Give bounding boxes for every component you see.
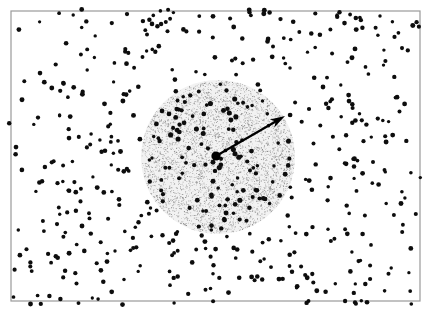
- scatter-point: [150, 234, 154, 238]
- scatter-point: [261, 196, 266, 201]
- scatter-point: [384, 202, 388, 206]
- scatter-point: [241, 188, 246, 193]
- scatter-point: [186, 146, 191, 151]
- scatter-point: [123, 230, 127, 234]
- scatter-point: [81, 90, 85, 94]
- scatter-point: [109, 140, 113, 144]
- scatter-point: [299, 264, 303, 268]
- scatter-point: [88, 143, 92, 147]
- scatter-point: [124, 61, 129, 66]
- scatter-point: [204, 209, 208, 213]
- scatter-point: [217, 276, 221, 280]
- scatter-point: [177, 123, 181, 127]
- scatter-point: [364, 65, 368, 69]
- scatter-point: [37, 180, 42, 185]
- scatter-point: [365, 300, 370, 305]
- scatter-point: [361, 139, 365, 143]
- scatter-point: [172, 251, 176, 255]
- scatter-point: [346, 60, 350, 64]
- scatter-point: [249, 149, 254, 154]
- scatter-point: [167, 166, 171, 170]
- scatter-point: [78, 199, 82, 203]
- scatter-point: [231, 25, 236, 30]
- scatter-point: [28, 260, 32, 264]
- scatter-point: [181, 95, 185, 99]
- scatter-point: [260, 277, 264, 281]
- scatter-point: [307, 178, 312, 183]
- scatter-point: [211, 14, 216, 19]
- scatter-point: [247, 205, 252, 210]
- scatter-point: [172, 301, 175, 304]
- scatter-point: [206, 146, 210, 150]
- scatter-point: [272, 164, 276, 168]
- scatter-point: [110, 21, 114, 25]
- scatter-point: [150, 156, 153, 159]
- scatter-point: [32, 123, 35, 126]
- scatter-point: [190, 260, 195, 265]
- scatter-point: [256, 82, 261, 87]
- scatter-point: [347, 212, 351, 216]
- scatter-point: [12, 295, 16, 299]
- scatter-point: [57, 11, 61, 15]
- scatter-point: [350, 250, 353, 253]
- scatter-point: [209, 223, 214, 228]
- scatter-point: [277, 193, 282, 198]
- scatter-point: [235, 190, 239, 194]
- figure-canvas: [0, 0, 432, 314]
- scatter-point: [330, 52, 334, 56]
- scatter-point: [204, 247, 208, 251]
- scatter-point: [55, 181, 59, 185]
- scatter-point: [310, 272, 314, 276]
- scatter-point: [409, 302, 413, 306]
- scatter-point: [159, 9, 163, 13]
- scatter-point: [406, 48, 410, 52]
- scatter-point: [147, 212, 151, 216]
- scatter-point: [376, 182, 381, 187]
- scatter-point: [318, 123, 322, 127]
- scatter-point: [176, 230, 180, 234]
- scatter-point: [225, 235, 229, 239]
- scatter-point: [224, 88, 228, 92]
- scatter-point: [295, 286, 299, 290]
- scatter-point: [67, 251, 72, 256]
- scatter-point: [370, 181, 374, 185]
- scatter-point: [156, 44, 161, 49]
- scatter-point: [218, 204, 222, 208]
- scatter-point: [288, 225, 292, 229]
- scatter-point: [139, 214, 143, 218]
- scatter-point: [271, 180, 275, 184]
- scatter-point: [155, 209, 159, 213]
- scatter-point: [91, 296, 94, 299]
- scatter-point: [408, 289, 412, 293]
- scatter-point: [237, 217, 241, 221]
- scatter-point: [376, 33, 380, 37]
- scatter-point: [197, 224, 201, 228]
- scatter-point: [248, 232, 252, 236]
- scatter-point: [337, 147, 341, 151]
- scatter-point: [383, 134, 387, 138]
- scatter-point: [211, 272, 215, 276]
- scatter-point: [226, 290, 231, 295]
- scatter-point: [358, 112, 361, 115]
- scatter-point: [85, 145, 89, 149]
- scatter-point: [407, 271, 410, 274]
- scatter-point: [312, 76, 317, 81]
- scatter-point: [247, 7, 252, 12]
- scatter-point: [255, 188, 260, 193]
- scatter-point: [289, 38, 293, 42]
- scatter-point: [354, 282, 357, 285]
- scatter-point: [265, 112, 269, 116]
- scatter-point: [332, 237, 336, 241]
- scatter-point: [352, 164, 357, 169]
- scatter-point: [197, 30, 201, 34]
- scatter-point: [126, 51, 130, 55]
- scatter-point: [233, 202, 238, 207]
- scatter-point: [313, 46, 317, 50]
- scatter-point: [290, 269, 294, 273]
- scatter-point: [292, 250, 296, 254]
- scatter-point: [161, 192, 165, 196]
- scatter-point: [258, 88, 262, 92]
- scatter-point: [219, 163, 224, 168]
- scatter-point: [279, 239, 283, 243]
- scatter-point: [213, 247, 218, 252]
